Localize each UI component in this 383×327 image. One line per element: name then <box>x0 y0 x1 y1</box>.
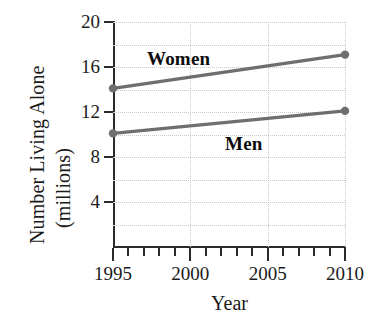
x-tick-mark-major <box>267 248 269 261</box>
x-axis-title: Year <box>113 290 346 316</box>
data-point-men-2010 <box>341 107 349 115</box>
x-tick-mark-major <box>189 248 191 261</box>
x-tick-mark-minor <box>236 248 238 256</box>
y-tick-label-text: 8 <box>56 147 100 166</box>
x-tick-mark-minor <box>220 248 222 256</box>
x-tick-label: 1995 <box>78 263 148 285</box>
x-tick-mark-minor <box>205 248 207 256</box>
data-point-women-2010 <box>341 50 349 58</box>
x-tick-mark-minor <box>158 248 160 256</box>
series-line-men <box>113 111 345 134</box>
data-point-women-1995 <box>109 84 117 92</box>
y-tick-label-text: 16 <box>56 57 100 76</box>
y-axis-title-line-1: Number Living Alone <box>26 65 49 244</box>
x-tick-label: 2005 <box>233 263 303 285</box>
x-tick-mark-minor <box>174 248 176 256</box>
y-tick-label: 20 <box>56 12 100 31</box>
series-label-men: Men <box>225 133 263 155</box>
data-point-men-1995 <box>109 129 117 137</box>
y-axis-title: Number Living Alone (millions) <box>0 0 88 258</box>
x-tick-mark-minor <box>313 248 315 256</box>
y-tick-label: 4 <box>56 192 100 211</box>
x-tick-mark-minor <box>127 248 129 256</box>
x-tick-label: 2000 <box>155 263 225 285</box>
x-tick-label-text: 2010 <box>310 263 380 285</box>
x-tick-mark-minor <box>143 248 145 256</box>
x-tick-mark-minor <box>298 248 300 256</box>
y-tick-label-text: 20 <box>56 12 100 31</box>
chart-figure: Number Living Alone (millions) 48121620 … <box>0 0 383 327</box>
y-tick-label-text: 12 <box>56 102 100 121</box>
y-tick-label: 16 <box>56 57 100 76</box>
x-tick-label-text: 2005 <box>233 263 303 285</box>
x-tick-label: 2010 <box>310 263 380 285</box>
x-tick-mark-minor <box>282 248 284 256</box>
series-label-women: Women <box>147 48 210 70</box>
y-tick-label: 8 <box>56 147 100 166</box>
x-tick-mark-major <box>344 248 346 261</box>
y-tick-label-text: 4 <box>56 192 100 211</box>
x-tick-label-text: 1995 <box>78 263 148 285</box>
x-axis-title-label: Year <box>113 290 346 316</box>
x-tick-mark-major <box>112 248 114 261</box>
x-tick-mark-minor <box>251 248 253 256</box>
y-tick-label: 12 <box>56 102 100 121</box>
x-tick-label-text: 2000 <box>155 263 225 285</box>
x-tick-mark-minor <box>329 248 331 256</box>
